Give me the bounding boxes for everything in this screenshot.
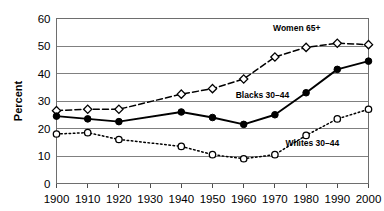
data-point-1960 xyxy=(241,156,247,162)
y-axis-title: Percent xyxy=(12,80,24,121)
data-point-1960 xyxy=(240,121,247,128)
series-label-women-65: Women 65+ xyxy=(273,23,320,33)
data-point-1990 xyxy=(334,66,341,73)
data-point-1920 xyxy=(116,136,122,142)
data-point-1910 xyxy=(85,129,91,135)
data-point-2000 xyxy=(364,41,372,49)
data-point-1990 xyxy=(334,116,340,122)
x-tick-label-1920: 1920 xyxy=(106,193,132,205)
data-point-2000 xyxy=(365,106,371,112)
series-annotations: Women 65+Blacks 30–44Whites 30–44 xyxy=(236,23,340,149)
data-point-1900 xyxy=(53,131,59,137)
y-tick-label-60: 60 xyxy=(38,13,51,25)
x-tick-label-2000: 2000 xyxy=(356,193,382,205)
data-point-1910 xyxy=(84,116,91,123)
data-point-1980 xyxy=(302,43,310,51)
data-point-1950 xyxy=(209,114,216,121)
data-point-1980 xyxy=(303,89,310,96)
data-point-1940 xyxy=(178,143,184,149)
x-tick-label-1970: 1970 xyxy=(262,193,288,205)
x-tick-label-1900: 1900 xyxy=(44,193,70,205)
data-point-1950 xyxy=(209,151,215,157)
x-tick-label-1940: 1940 xyxy=(169,193,195,205)
data-point-1910 xyxy=(84,105,92,113)
y-tick-label-0: 0 xyxy=(44,178,50,190)
y-tick-label-50: 50 xyxy=(38,40,51,52)
y-tick-label-10: 10 xyxy=(38,150,51,162)
series-label-whites-30-44: Whites 30–44 xyxy=(285,138,339,148)
x-tick-label-1930: 1930 xyxy=(137,193,163,205)
y-tick-label-40: 40 xyxy=(38,68,51,80)
data-point-1970 xyxy=(272,151,278,157)
data-point-1920 xyxy=(116,118,123,125)
data-point-1920 xyxy=(115,105,123,113)
data-point-1970 xyxy=(272,111,279,118)
data-point-2000 xyxy=(365,58,372,65)
x-tick-label-1950: 1950 xyxy=(200,193,226,205)
y-axis-title-text: Percent xyxy=(12,80,24,121)
series-women-65 xyxy=(52,39,372,115)
data-point-1900 xyxy=(53,113,60,120)
y-axis-tick-labels: 0102030405060 xyxy=(38,13,51,190)
x-tick-label-1960: 1960 xyxy=(231,193,257,205)
data-point-1950 xyxy=(208,85,216,93)
y-tick-label-20: 20 xyxy=(38,123,51,135)
x-tick-label-1980: 1980 xyxy=(293,193,319,205)
line-chart: 0102030405060 19001910192019301940195019… xyxy=(0,0,384,211)
y-tick-label-30: 30 xyxy=(38,95,51,107)
data-point-1940 xyxy=(177,90,185,98)
series-label-blacks-30-44: Blacks 30–44 xyxy=(236,90,290,100)
x-axis-tick-labels: 1900191019201930194019501960197019801990… xyxy=(44,193,382,205)
x-axis-ticks xyxy=(57,184,369,189)
data-point-1940 xyxy=(178,109,185,116)
chart-container: 0102030405060 19001910192019301940195019… xyxy=(0,0,384,211)
x-tick-label-1990: 1990 xyxy=(325,193,351,205)
x-tick-label-1910: 1910 xyxy=(75,193,101,205)
